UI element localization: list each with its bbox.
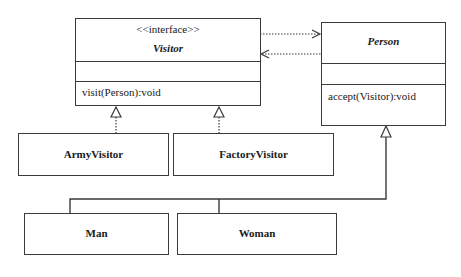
dependency-person-to-visitor [261,50,321,58]
person-name: Person [322,35,445,47]
visitor-divider-1 [76,61,260,62]
visitor-stereotype: <<interface>> [76,23,260,35]
class-armyvisitor[interactable]: ArmyVisitor [18,133,169,176]
person-divider-1 [322,63,445,64]
armyvisitor-name: ArmyVisitor [19,148,168,160]
visitor-name: Visitor [76,42,260,54]
factoryvisitor-name: FactoryVisitor [174,148,333,160]
person-method: accept(Visitor):void [328,90,416,102]
realization-factoryvisitor [214,107,224,133]
person-divider-2 [322,84,445,85]
class-man[interactable]: Man [24,213,169,255]
dependency-visitor-to-person [260,30,320,38]
class-person[interactable]: Person accept(Visitor):void [321,22,446,126]
woman-name: Woman [178,227,336,239]
visitor-method: visit(Person):void [82,86,161,98]
visitor-divider-2 [76,81,260,82]
class-woman[interactable]: Woman [177,213,337,255]
man-name: Man [25,227,168,239]
realization-armyvisitor [111,107,121,133]
class-factoryvisitor[interactable]: FactoryVisitor [173,133,334,176]
class-visitor[interactable]: <<interface>> Visitor visit(Person):void [75,18,261,106]
